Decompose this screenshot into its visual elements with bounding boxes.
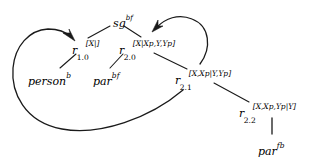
- node-r-1-0-signature: [X|]: [86, 39, 100, 48]
- node-sg-base: sg: [113, 17, 126, 30]
- arrowhead-into-r20: [152, 20, 163, 32]
- node-r-2-1[interactable]: r2.1[X,Xp|Y,Yp]: [175, 71, 235, 90]
- diagram-canvas: sgbf r1.0[X|] r2.0[X|Xp,Y,Yp] r2.1[X,Xp|…: [0, 0, 333, 166]
- leaf-par-fb-sup: fb: [277, 141, 285, 150]
- node-r-2-2[interactable]: r2.2[X,Xp,Yp|Y]: [239, 104, 300, 123]
- node-r-2-2-signature: [X,Xp,Yp|Y]: [253, 102, 296, 111]
- node-r-2-1-sub: 2.1: [180, 83, 192, 92]
- node-r-2-0[interactable]: r2.0[X|Xp,Y,Yp]: [119, 41, 179, 60]
- leaf-person[interactable]: personb: [28, 72, 71, 88]
- arrowhead-into-r10: [63, 29, 75, 41]
- leaf-par-fb[interactable]: parfb: [258, 142, 284, 158]
- node-sg[interactable]: sgbf: [113, 14, 133, 30]
- node-sg-sup: bf: [126, 14, 133, 22]
- node-r-1-0[interactable]: r1.0[X|]: [72, 41, 103, 60]
- node-r-1-0-sub: 1.0: [77, 53, 89, 62]
- node-r-2-0-sub: 2.0: [124, 53, 136, 62]
- leaf-par-fb-base: par: [258, 145, 277, 158]
- edge-sg-to-r10: [88, 26, 110, 38]
- node-r-2-2-sub: 2.2: [244, 116, 256, 125]
- node-r-2-1-signature: [X,Xp|Y,Yp]: [189, 69, 231, 78]
- leaf-par-bf-sup: bf: [112, 71, 120, 80]
- leaf-person-sup: b: [66, 71, 71, 80]
- leaf-person-base: person: [28, 75, 66, 88]
- leaf-par-bf-base: par: [93, 75, 112, 88]
- node-r-2-0-signature: [X|Xp,Y,Yp]: [133, 39, 175, 48]
- leaf-par-bf[interactable]: parbf: [93, 72, 119, 88]
